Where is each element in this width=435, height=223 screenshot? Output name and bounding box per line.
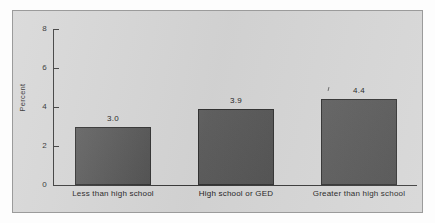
y-tick-mark: [54, 68, 59, 69]
y-tick-mark: [54, 185, 59, 186]
y-tick-label-text: 2: [21, 141, 47, 150]
x-category-label-1: Less than high school: [53, 189, 173, 198]
plot-area: Percent 8 6 4 2 0: [13, 11, 422, 212]
y-tick-label-4: 4: [13, 102, 47, 112]
bar-value-label: 3.0: [75, 114, 151, 123]
y-tick-mark: [54, 146, 59, 147]
y-tick-label-8: 8: [13, 24, 47, 34]
y-tick-label-text: 4: [21, 102, 47, 111]
y-tick-mark: [54, 107, 59, 108]
x-category-label-3: Greater than high school: [297, 189, 421, 198]
y-tick-label-0: 0: [13, 180, 47, 190]
y-tick-mark: [54, 29, 59, 30]
x-category-label-2: High school or GED: [176, 189, 296, 198]
bar-high-school-or-ged: [198, 109, 274, 185]
bar-less-than-high-school: [75, 127, 151, 185]
figure-root: Percent 8 6 4 2 0: [0, 0, 435, 223]
chart-panel: Percent 8 6 4 2 0: [12, 10, 423, 213]
y-tick-label-text: 8: [21, 24, 47, 33]
y-tick-label-2: 2: [13, 141, 47, 151]
y-tick-label-6: 6: [13, 63, 47, 73]
y-axis-title: Percent: [18, 68, 27, 128]
bar-value-label: 4.4: [321, 86, 397, 95]
bar-value-label: 3.9: [198, 96, 274, 105]
y-tick-label-text: 0: [21, 180, 47, 189]
y-tick-label-text: 6: [21, 63, 47, 72]
x-axis-line: [53, 185, 417, 186]
bar-greater-than-high-school: [321, 99, 397, 185]
